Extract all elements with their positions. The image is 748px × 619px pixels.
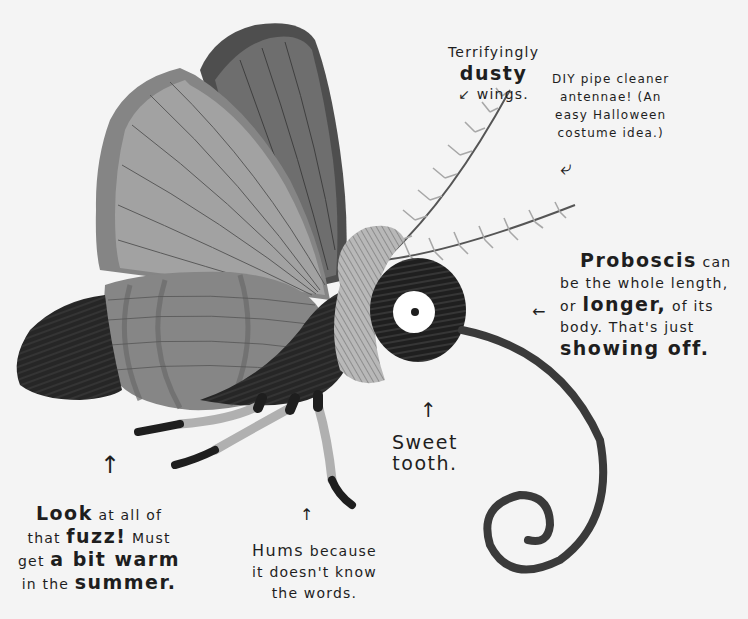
fuzz-note-line-3: get a bit warm <box>18 549 180 572</box>
hums-note: Hums because it doesn't know the words. <box>252 540 377 604</box>
antennae-note-line-2: antennae! (An <box>552 88 669 106</box>
hums-note-line-1: Hums because <box>252 540 377 562</box>
hums-note-line-3: the words. <box>252 583 377 604</box>
fuzz-note-line-1: Look at all of <box>18 503 180 526</box>
sweet-tooth-note-line-1: Sweet <box>392 432 458 453</box>
arrow-left-icon: ← <box>532 302 545 322</box>
fuzz-note: Look at all of that fuzz! Must get a bit… <box>18 503 180 595</box>
fuzz-note-line-4: in the summer. <box>18 572 180 595</box>
antennae <box>385 88 575 264</box>
sweet-tooth-note-line-2: tooth. <box>392 453 458 474</box>
proboscis-note-line-1: Proboscis can <box>560 250 731 273</box>
wings-note-line-1: Terrifyingly <box>448 42 539 63</box>
proboscis <box>462 330 603 570</box>
legs <box>138 395 352 505</box>
wings-note: Terrifyingly dusty ↙ wings. <box>448 42 539 105</box>
fuzz-note-line-2: that fuzz! Must <box>18 526 180 549</box>
arrow-up-icon: ↑ <box>100 455 120 475</box>
antennae-note-line-1: DIY pipe cleaner <box>552 70 669 88</box>
proboscis-note-line-3: or longer, of its <box>560 294 731 317</box>
abdomen-fur <box>17 295 122 400</box>
eye <box>393 291 435 333</box>
wings-note-line-2: dusty <box>448 63 539 84</box>
arrow-down-left-icon: ↙ <box>458 86 471 102</box>
arrow-up-icon: ↑ <box>300 505 313 525</box>
curved-arrow-icon: ⤶ <box>560 158 571 178</box>
arrow-up-icon: ↑ <box>420 400 437 420</box>
wings-note-line-3: ↙ wings. <box>448 84 539 105</box>
proboscis-note-line-5: showing off. <box>560 338 731 359</box>
antennae-note-line-3: easy Halloween <box>552 106 669 124</box>
antennae-note-line-4: costume idea.) <box>552 124 669 142</box>
proboscis-note-line-2: be the whole length, <box>560 273 731 294</box>
proboscis-note-line-4: body. That's just <box>560 317 731 338</box>
hums-note-line-2: it doesn't know <box>252 562 377 583</box>
antennae-note: DIY pipe cleaner antennae! (An easy Hall… <box>552 70 669 142</box>
proboscis-note: Proboscis can be the whole length, or lo… <box>560 250 731 359</box>
sweet-tooth-note: Sweet tooth. <box>392 432 458 474</box>
